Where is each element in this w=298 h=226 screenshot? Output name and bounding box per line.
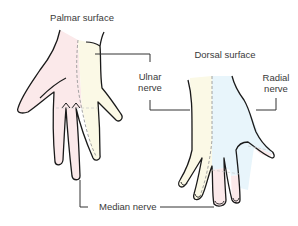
palmar-median-region: [18, 30, 82, 180]
dorsal-surface-title: Dorsal surface: [185, 49, 265, 60]
nerve-distribution-diagram: Palmar surface Dorsal surface Ulnar nerv…: [0, 0, 298, 226]
radial-nerve-label: Radial nerve: [256, 72, 296, 94]
palmar-hand: [18, 30, 122, 180]
ulnar-nerve-label: Ulnar nerve: [130, 71, 170, 93]
median-nerve-label: Median nerve: [99, 201, 157, 212]
palmar-surface-title: Palmar surface: [42, 12, 122, 23]
radial-leader: [256, 98, 276, 110]
ulnar-leader-dorsal: [150, 100, 190, 110]
radial-label-line1: Radial: [256, 72, 296, 83]
dorsal-hand: [179, 76, 274, 206]
ulnar-label-line2: nerve: [130, 82, 170, 93]
median-leader-palmar: [80, 180, 88, 207]
radial-label-line2: nerve: [256, 83, 296, 94]
ulnar-leader-palmar: [95, 54, 150, 62]
ulnar-label-line1: Ulnar: [130, 71, 170, 82]
